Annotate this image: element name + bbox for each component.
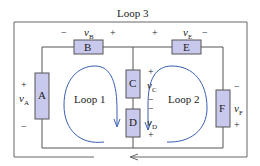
loop1-label: Loop 1 [74, 94, 105, 105]
voltage-e-label: vE [183, 27, 192, 41]
component-d-label: D [129, 117, 137, 128]
component-c-label: C [129, 78, 136, 89]
polarity-d-plus: + [148, 130, 154, 140]
polarity-e-minus: − [202, 28, 208, 38]
polarity-b-minus: − [61, 28, 67, 38]
polarity-a-minus: − [21, 122, 27, 132]
voltage-f-label: vF [234, 103, 243, 117]
loop3-label: Loop 3 [117, 8, 148, 19]
polarity-d-minus: − [148, 104, 154, 114]
component-e-label: E [183, 42, 190, 53]
voltage-c-label: vC [147, 80, 157, 94]
polarity-c-plus: + [148, 67, 154, 77]
circuit-diagram: Loop 3 A B C D E F vA vB vC vD vE vF + −… [0, 0, 260, 166]
component-b-label: B [84, 42, 91, 53]
polarity-e-plus: + [152, 28, 158, 38]
polarity-b-plus: + [110, 28, 116, 38]
polarity-f-minus: − [234, 82, 240, 92]
polarity-a-plus: + [21, 80, 27, 90]
component-f-label: F [219, 103, 225, 114]
loop2-label: Loop 2 [168, 94, 199, 105]
component-a-label: A [38, 90, 46, 101]
voltage-b-label: vB [84, 27, 94, 41]
voltage-a-label: vA [19, 93, 29, 107]
polarity-f-plus: + [234, 120, 240, 130]
